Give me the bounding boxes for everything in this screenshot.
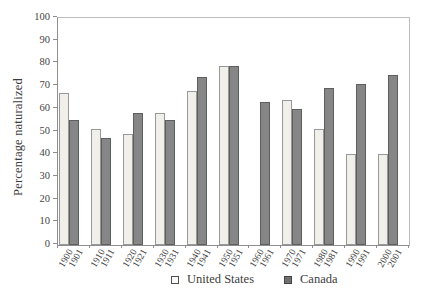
bar-slot [282,100,292,245]
y-axis-tick-label-80: 80 [0,56,50,68]
bars-container [58,18,409,245]
bar-slot [59,93,69,245]
bar-united-states-1980 [314,129,324,245]
y-axis-tick-mark [53,198,57,199]
bar-slot [123,134,133,245]
bar-group-1910 [90,18,122,245]
bar-slot [324,88,334,245]
bar-canada-1951 [229,66,239,245]
bar-slot [346,154,356,245]
bar-slot [197,77,207,245]
bar-slot [69,120,79,245]
bar-group-1980 [313,18,345,245]
y-axis-tick-mark [53,152,57,153]
bar-canada-1901 [69,120,79,245]
bar-slot [292,109,302,245]
bar-slot [356,84,366,245]
bar-slot [378,154,388,245]
bar-group-1900 [58,18,90,245]
y-axis-tick-label-10: 10 [0,215,50,227]
bar-group-2000 [377,18,409,245]
bar-group-1920 [122,18,154,245]
bar-canada-1981 [324,88,334,245]
bar-canada-1931 [165,120,175,245]
y-axis-tick-mark [53,175,57,176]
legend-item-canada: Canada [284,272,337,287]
bar-canada-1961 [260,102,270,245]
x-axis-tick-mark [408,245,409,248]
x-axis-tick-mark [248,245,249,248]
bar-slot [219,66,229,245]
y-axis-tick-mark [53,220,57,221]
bar-canada-1991 [356,84,366,245]
bar-united-states-1910 [91,129,101,245]
legend: United States Canada [171,272,338,287]
bar-slot [155,113,165,245]
bar-group-1940 [186,18,218,245]
x-axis-tick-mark [376,245,377,248]
bar-united-states-1940 [187,91,197,245]
bar-united-states-1990 [346,154,356,245]
legend-item-united-states: United States [171,272,254,287]
x-axis-tick-mark [280,245,281,248]
bar-canada-1921 [133,113,143,245]
x-axis-tick-mark [153,245,154,248]
bar-group-1970 [281,18,313,245]
y-axis-tick-label-40: 40 [0,147,50,159]
bar-canada-1971 [292,109,302,245]
bar-united-states-2000 [378,154,388,245]
bar-united-states-1900 [59,93,69,245]
bar-slot [229,66,239,245]
canada-legend-swatch [284,276,292,284]
y-axis-tick-mark [53,130,57,131]
y-axis-tick-label-70: 70 [0,79,50,91]
y-axis-tick-mark [53,61,57,62]
plot-area [57,17,410,246]
bar-united-states-1950 [219,66,229,245]
y-axis-tick-mark [53,243,57,244]
naturalization-bar-chart: Percentage naturalized United States Can… [0,0,426,302]
bar-canada-2001 [388,75,398,245]
x-axis-tick-mark [185,245,186,248]
bar-united-states-1920 [123,134,133,245]
bar-united-states-1930 [155,113,165,245]
y-axis-tick-label-90: 90 [0,34,50,46]
bar-slot [187,91,197,245]
y-axis-tick-mark [53,107,57,108]
bar-group-1930 [154,18,186,245]
bar-slot [101,138,111,245]
y-axis-tick-label-30: 30 [0,170,50,182]
x-axis-tick-mark [344,245,345,248]
x-axis-tick-mark [121,245,122,248]
y-axis-tick-label-20: 20 [0,193,50,205]
bar-canada-1941 [197,77,207,245]
x-axis-tick-mark [57,245,58,248]
y-axis-tick-label-50: 50 [0,125,50,137]
y-axis-tick-mark [53,39,57,40]
canada-legend-label: Canada [300,272,337,287]
x-axis-tick-mark [217,245,218,248]
y-axis-tick-mark [53,16,57,17]
x-axis-tick-mark [312,245,313,248]
bar-slot [133,113,143,245]
bar-slot [388,75,398,245]
y-axis-tick-mark [53,84,57,85]
bar-slot [260,102,270,245]
bar-slot [314,129,324,245]
united-states-legend-swatch [171,276,179,284]
bar-united-states-1970 [282,100,292,245]
united-states-legend-label: United States [187,272,254,287]
y-axis-tick-label-0: 0 [0,238,50,250]
bar-group-1960 [249,18,281,245]
bar-slot [91,129,101,245]
bar-group-1950 [218,18,250,245]
bar-canada-1911 [101,138,111,245]
bar-group-1990 [345,18,377,245]
y-axis-tick-label-60: 60 [0,102,50,114]
x-axis-tick-mark [89,245,90,248]
bar-slot [165,120,175,245]
y-axis-tick-label-100: 100 [0,11,50,23]
